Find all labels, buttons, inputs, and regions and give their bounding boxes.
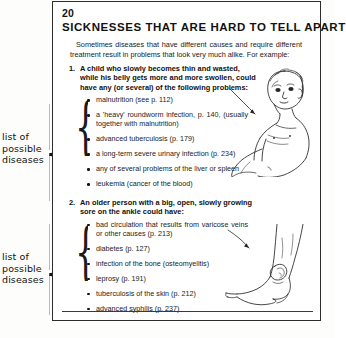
item-2-heading-text: An older person with a big, open, slowly… (80, 198, 259, 217)
child-with-swollen-belly-illustration (228, 59, 320, 177)
margin-note-list-of-possible-diseases-1: list of possible diseases (2, 131, 48, 166)
item-2-heading: 2. An older person with a big, open, slo… (69, 198, 259, 217)
book-page-sheet: 20 SICKNESSES THAT ARE HARD TO TELL APAR… (52, 1, 321, 321)
item-1-number: 1. (69, 64, 80, 92)
page-number: 20 (62, 7, 74, 19)
margin-note-text: list of possible diseases (2, 131, 44, 165)
bullet-item: leukemia (cancer of the blood) (87, 180, 259, 189)
ankle-with-open-sore-illustration (225, 224, 320, 310)
bullet-item: bad circulation that results from varico… (87, 221, 248, 239)
margin-note-text: list of possible diseases (2, 251, 44, 285)
margin-note-list-of-possible-diseases-2: list of possible diseases (2, 251, 48, 286)
bullet-item: infection of the bone (osteomyelitis) (87, 260, 248, 269)
item-2-number: 2. (69, 198, 80, 217)
intro-paragraph: Sometimes diseases that have different c… (70, 40, 302, 59)
page-title: SICKNESSES THAT ARE HARD TO TELL APART (62, 21, 346, 33)
bottom-divider (62, 311, 313, 312)
bullet-item: a 'heavy' roundworm infection, p. 140, (… (87, 111, 248, 129)
